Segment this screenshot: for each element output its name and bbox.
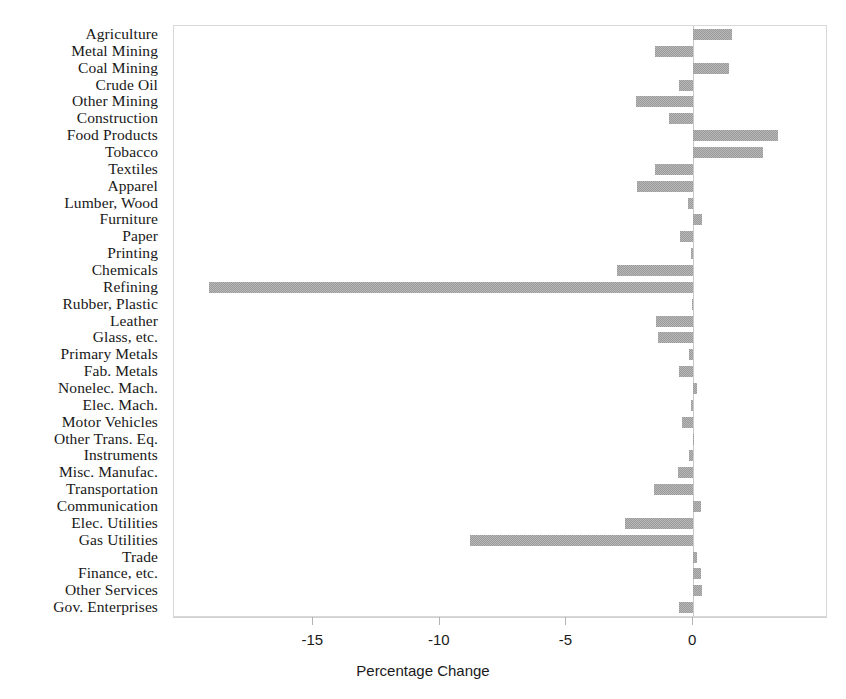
category-label: Crude Oil — [0, 77, 158, 93]
bar — [688, 198, 693, 209]
x-tick-label: -10 — [409, 631, 469, 648]
bar — [682, 417, 693, 428]
x-tick-label: -15 — [282, 631, 342, 648]
x-tick-label: -5 — [535, 631, 595, 648]
category-label: Finance, etc. — [0, 565, 158, 581]
bar — [689, 450, 693, 461]
category-label: Primary Metals — [0, 346, 158, 362]
bar — [693, 63, 728, 74]
category-label: Elec. Mach. — [0, 397, 158, 413]
category-label: Motor Vehicles — [0, 414, 158, 430]
category-label: Other Trans. Eq. — [0, 431, 158, 447]
category-label: Food Products — [0, 127, 158, 143]
bar — [637, 181, 693, 192]
category-label: Communication — [0, 498, 158, 514]
bar — [692, 299, 693, 310]
bar — [658, 332, 693, 343]
percentage-change-bar-chart: AgricultureMetal MiningCoal MiningCrude … — [0, 0, 846, 699]
x-axis-title: Percentage Change — [0, 662, 846, 679]
category-label: Other Services — [0, 582, 158, 598]
category-label: Apparel — [0, 178, 158, 194]
bar — [691, 248, 694, 259]
x-tick — [565, 617, 566, 625]
bar — [656, 316, 693, 327]
category-label: Transportation — [0, 481, 158, 497]
bar — [654, 484, 693, 495]
category-label: Paper — [0, 228, 158, 244]
bar — [679, 366, 693, 377]
category-label: Trade — [0, 549, 158, 565]
bar — [617, 265, 693, 276]
bar — [625, 518, 693, 529]
bar — [693, 147, 763, 158]
bar — [693, 568, 701, 579]
bar — [693, 383, 697, 394]
category-label: Refining — [0, 279, 158, 295]
bar — [693, 29, 732, 40]
category-label: Nonelec. Mach. — [0, 380, 158, 396]
bar — [470, 535, 693, 546]
category-label: Chemicals — [0, 262, 158, 278]
bar — [636, 96, 693, 107]
bar — [678, 467, 693, 478]
bar — [691, 400, 694, 411]
bar — [693, 214, 702, 225]
bar — [693, 130, 778, 141]
bar — [693, 434, 694, 445]
category-label: Tobacco — [0, 144, 158, 160]
x-tick-label: 0 — [662, 631, 722, 648]
category-label: Coal Mining — [0, 60, 158, 76]
x-tick — [312, 617, 313, 625]
category-label: Misc. Manufac. — [0, 464, 158, 480]
category-label: Other Mining — [0, 93, 158, 109]
category-label: Textiles — [0, 161, 158, 177]
category-label: Instruments — [0, 447, 158, 463]
plot-frame — [173, 25, 827, 617]
category-label: Rubber, Plastic — [0, 296, 158, 312]
bar — [693, 585, 702, 596]
bar — [693, 501, 701, 512]
bar — [679, 602, 693, 613]
bar — [655, 46, 693, 57]
bar — [680, 231, 693, 242]
category-label: Gov. Enterprises — [0, 599, 158, 615]
x-axis: -15-10-50 — [173, 617, 827, 618]
category-label: Elec. Utilities — [0, 515, 158, 531]
category-label: Construction — [0, 110, 158, 126]
category-label: Glass, etc. — [0, 329, 158, 345]
bar — [669, 113, 693, 124]
bar — [655, 164, 693, 175]
bar — [209, 282, 693, 293]
category-label: Agriculture — [0, 26, 158, 42]
x-tick — [439, 617, 440, 625]
bar — [689, 349, 693, 360]
category-label: Gas Utilities — [0, 532, 158, 548]
zero-reference-line — [693, 26, 694, 616]
category-label: Lumber, Wood — [0, 195, 158, 211]
category-label: Furniture — [0, 211, 158, 227]
bar — [679, 80, 693, 91]
bar — [693, 552, 697, 563]
category-label: Printing — [0, 245, 158, 261]
category-label: Metal Mining — [0, 43, 158, 59]
category-label: Leather — [0, 313, 158, 329]
category-label: Fab. Metals — [0, 363, 158, 379]
plot-area — [174, 26, 826, 616]
category-axis: AgricultureMetal MiningCoal MiningCrude … — [0, 25, 166, 617]
x-tick — [692, 617, 693, 625]
